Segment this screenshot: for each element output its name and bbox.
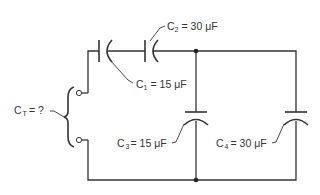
brace-icon [64, 87, 74, 147]
label-ct: CT= ? [14, 104, 44, 117]
leader-c1 [110, 60, 133, 83]
label-c3: C3= 15 μF [117, 137, 167, 150]
label-c1: C1= 15 μF [136, 78, 187, 91]
label-c4: C4= 30 μF [216, 137, 267, 150]
leader-c3 [172, 124, 184, 143]
wires [82, 51, 296, 180]
leader-ct [50, 111, 64, 117]
label-c2: C2= 30 μF [167, 20, 218, 33]
wire-bottom [88, 121, 296, 180]
junction-dot-top [194, 49, 199, 54]
junction-dot-bottom [194, 178, 199, 183]
leader-c2 [150, 26, 165, 41]
leader-c4 [272, 124, 284, 143]
circuit-diagram: CT= ? C1= 15 μF C2= 30 μF C3= 15 μF C4= … [0, 0, 320, 195]
terminal-bottom [76, 137, 81, 142]
terminal-top [76, 90, 81, 95]
wire-left-top [88, 51, 99, 93]
